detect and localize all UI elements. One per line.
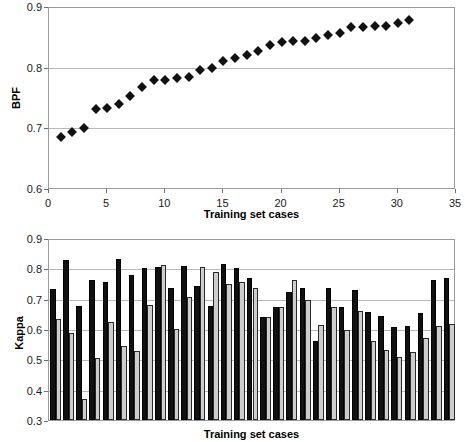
kappa-bar-light bbox=[213, 272, 219, 420]
bpf-data-point bbox=[102, 103, 112, 113]
kappa-y-tick-mark bbox=[44, 391, 48, 392]
kappa-bar-light bbox=[436, 326, 442, 420]
kappa-bar-light bbox=[121, 346, 127, 420]
figure-container: BPF Training set cases 0.60.70.80.905101… bbox=[0, 0, 465, 442]
kappa-bar-light bbox=[410, 352, 416, 420]
bpf-x-tick-label: 5 bbox=[103, 198, 109, 209]
bpf-data-point bbox=[358, 22, 368, 32]
bpf-x-tick-label: 15 bbox=[216, 198, 228, 209]
bpf-data-point bbox=[56, 132, 66, 142]
bpf-x-tick-label: 0 bbox=[45, 198, 51, 209]
kappa-y-tick-label: 0.6 bbox=[27, 325, 42, 336]
bpf-data-point bbox=[300, 36, 310, 46]
kappa-bar-light bbox=[344, 330, 350, 420]
bpf-data-point bbox=[346, 22, 356, 32]
kappa-y-tick-mark bbox=[44, 239, 48, 240]
bpf-x-tick-mark bbox=[48, 189, 49, 193]
kappa-y-tick-mark bbox=[44, 300, 48, 301]
kappa-y-tick-mark bbox=[44, 360, 48, 361]
kappa-bar-light bbox=[147, 305, 153, 420]
bpf-y-tick-label: 0.7 bbox=[27, 123, 42, 134]
bpf-x-tick-mark bbox=[164, 189, 165, 193]
bpf-data-point bbox=[288, 36, 298, 46]
kappa-gridline bbox=[49, 269, 454, 270]
bpf-y-tick-mark bbox=[44, 7, 48, 8]
bpf-data-point bbox=[207, 63, 217, 73]
bpf-data-point bbox=[114, 100, 124, 110]
kappa-bar-light bbox=[266, 317, 272, 420]
kappa-bar-light bbox=[69, 333, 75, 420]
kappa-plot-area bbox=[48, 239, 455, 421]
kappa-y-tick-label: 0.5 bbox=[27, 355, 42, 366]
kappa-bar-light bbox=[384, 350, 390, 420]
bpf-data-point bbox=[312, 33, 322, 43]
bpf-data-point bbox=[253, 46, 263, 56]
bpf-data-point bbox=[393, 18, 403, 28]
bpf-data-point bbox=[172, 73, 182, 83]
kappa-y-tick-label: 0.3 bbox=[27, 416, 42, 427]
kappa-bar-light bbox=[56, 319, 62, 420]
bpf-y-tick-label: 0.9 bbox=[27, 2, 42, 13]
kappa-bar-light bbox=[358, 311, 364, 421]
kappa-bar-light bbox=[134, 351, 140, 420]
bpf-data-point bbox=[277, 37, 287, 47]
kappa-y-tick-mark bbox=[44, 421, 48, 422]
bpf-x-tick-mark bbox=[455, 189, 456, 193]
kappa-bar-light bbox=[108, 322, 114, 420]
bpf-data-point bbox=[323, 30, 333, 40]
kappa-bar-light bbox=[397, 357, 403, 420]
kappa-bar-light bbox=[200, 267, 206, 420]
bpf-y-tick-label: 0.8 bbox=[27, 62, 42, 73]
kappa-bar-light bbox=[292, 280, 298, 420]
kappa-y-tick-mark bbox=[44, 269, 48, 270]
bpf-data-point bbox=[335, 28, 345, 38]
kappa-bar-light bbox=[226, 284, 232, 420]
kappa-bar-light bbox=[161, 265, 167, 420]
bpf-x-tick-label: 35 bbox=[449, 198, 461, 209]
kappa-bar-light bbox=[174, 329, 180, 420]
kappa-bar-light bbox=[95, 358, 101, 420]
kappa-bar-light bbox=[305, 300, 311, 420]
bpf-x-tick-label: 25 bbox=[333, 198, 345, 209]
bpf-plot-area bbox=[48, 7, 455, 189]
bpf-data-point bbox=[149, 75, 159, 85]
bpf-y-axis-label: BPF bbox=[10, 68, 22, 128]
kappa-y-tick-label: 0.4 bbox=[27, 385, 42, 396]
kappa-bar-light bbox=[423, 338, 429, 420]
kappa-y-tick-label: 0.8 bbox=[27, 264, 42, 275]
kappa-chart-panel: Kappa Training set cases 0.30.40.50.60.7… bbox=[0, 232, 465, 442]
bpf-data-point bbox=[381, 21, 391, 31]
bpf-data-point bbox=[79, 123, 89, 133]
bpf-y-tick-mark bbox=[44, 68, 48, 69]
kappa-bar-light bbox=[318, 325, 324, 420]
kappa-x-axis-label: Training set cases bbox=[48, 428, 455, 440]
bpf-x-tick-mark bbox=[106, 189, 107, 193]
bpf-y-tick-label: 0.6 bbox=[27, 184, 42, 195]
bpf-data-point bbox=[218, 56, 228, 66]
bpf-data-point bbox=[125, 91, 135, 101]
bpf-x-tick-label: 30 bbox=[391, 198, 403, 209]
bpf-x-axis-label: Training set cases bbox=[48, 208, 455, 220]
kappa-bar-light bbox=[279, 307, 285, 420]
kappa-bar-light bbox=[253, 288, 259, 420]
bpf-chart-panel: BPF Training set cases 0.60.70.80.905101… bbox=[0, 0, 465, 224]
bpf-x-tick-mark bbox=[397, 189, 398, 193]
bpf-x-tick-label: 10 bbox=[158, 198, 170, 209]
bpf-y-tick-mark bbox=[44, 128, 48, 129]
kappa-y-axis-label: Kappa bbox=[13, 298, 25, 368]
kappa-y-tick-label: 0.7 bbox=[27, 294, 42, 305]
bpf-data-point bbox=[242, 50, 252, 60]
kappa-bar-light bbox=[331, 307, 337, 420]
bpf-data-point bbox=[230, 53, 240, 63]
bpf-data-point bbox=[137, 83, 147, 93]
bpf-data-point bbox=[265, 40, 275, 50]
bpf-data-point bbox=[405, 15, 415, 25]
bpf-data-point bbox=[91, 104, 101, 114]
kappa-y-tick-mark bbox=[44, 330, 48, 331]
kappa-bar-light bbox=[371, 341, 377, 420]
bpf-data-point bbox=[370, 21, 380, 31]
bpf-x-tick-mark bbox=[339, 189, 340, 193]
bpf-x-tick-mark bbox=[281, 189, 282, 193]
bpf-data-point bbox=[184, 72, 194, 82]
bpf-data-point bbox=[160, 75, 170, 85]
